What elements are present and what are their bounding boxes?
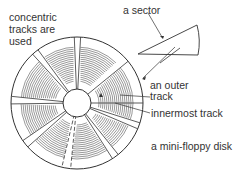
innermost-track-label: innermost track	[151, 107, 223, 119]
outer-track-label: an outer track	[150, 80, 189, 102]
caption: a mini-floppy disk	[151, 140, 232, 152]
label-line: concentric	[9, 11, 57, 23]
label-line: tracks are	[9, 23, 57, 35]
disk	[5, 30, 150, 170]
sector-piece	[138, 25, 199, 63]
concentric-tracks-label: concentric tracks are used	[9, 11, 57, 47]
sector-label: a sector	[123, 4, 160, 16]
label-line: track	[150, 91, 189, 102]
label-line: used	[9, 35, 57, 47]
